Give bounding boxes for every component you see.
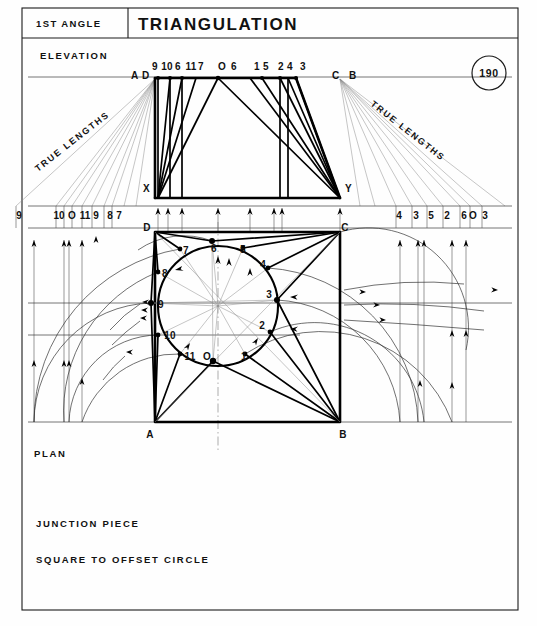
- plan-label-2: 2: [259, 320, 265, 331]
- plan-label-O: O: [203, 351, 211, 362]
- caption-line-1: JUNCTION PIECE: [36, 518, 140, 529]
- lscale-9: 9: [16, 210, 22, 221]
- elevation-section-label: ELEVATION: [40, 50, 108, 61]
- projection-angle-label: 1ST ANGLE: [36, 18, 102, 29]
- elev-label-10: 10: [161, 61, 173, 72]
- plan-label-1: 1: [241, 351, 247, 362]
- plan-label-7: 7: [183, 245, 189, 256]
- plan-label-8: 8: [162, 268, 168, 279]
- plan-label-A: A: [146, 429, 154, 440]
- rscale-3b: 3: [482, 210, 488, 221]
- elev-label-4: 4: [287, 61, 293, 72]
- elev-label-Y: Y: [345, 183, 352, 194]
- caption-line-2: SQUARE TO OFFSET CIRCLE: [36, 554, 210, 565]
- lscale-8: 8: [107, 210, 113, 221]
- lscale-7: 7: [116, 210, 122, 221]
- elev-label-A: A: [131, 70, 139, 81]
- left-projection-arcs: [32, 236, 212, 422]
- elev-label-2: 2: [278, 61, 284, 72]
- plan-label-5: 5: [240, 244, 246, 255]
- right-true-lengths-label: TRUE LENGTHS: [369, 99, 447, 163]
- elev-label-11: 11: [185, 61, 196, 72]
- left-scale-numbers: 9 10 O 11 9 8 7: [16, 210, 122, 221]
- plan-label-6: 6: [211, 243, 217, 254]
- elev-label-6: 6: [175, 61, 181, 72]
- elev-label-9: 9: [152, 61, 158, 72]
- plan-label-10: 10: [164, 330, 176, 341]
- lscale-9b: 9: [93, 210, 99, 221]
- technical-drawing-canvas: 1ST ANGLE TRIANGULATION 190 ELEVATION PL…: [0, 0, 537, 626]
- right-projection-arcs: [245, 228, 498, 422]
- plan-label-11: 11: [184, 351, 195, 362]
- elevation-top-point-labels: 9 10 6 11 7 O 6 1 5 2 4 3: [152, 61, 306, 72]
- lscale-11: 11: [80, 210, 91, 221]
- elev-label-X: X: [143, 183, 150, 194]
- elevation-triangulation-lines: [158, 78, 340, 198]
- plan-label-3: 3: [266, 289, 272, 300]
- drawing-sheet: 1ST ANGLE TRIANGULATION 190 ELEVATION PL…: [0, 0, 537, 626]
- elev-label-6b: 6: [231, 61, 237, 72]
- elev-label-5: 5: [263, 61, 269, 72]
- elev-label-3: 3: [300, 61, 306, 72]
- elev-label-o: O: [218, 61, 226, 72]
- left-true-length-fan: [16, 79, 155, 206]
- elev-label-C: C: [332, 70, 340, 81]
- elev-label-D: D: [142, 70, 150, 81]
- rscale-O: O: [469, 210, 477, 221]
- plan-label-B: B: [339, 429, 347, 440]
- elev-label-B: B: [349, 70, 357, 81]
- right-scale-numbers: 4 3 5 2 6 O 3: [396, 210, 488, 221]
- drawing-title: TRIANGULATION: [138, 15, 298, 34]
- plan-section-label: PLAN: [34, 448, 67, 459]
- rscale-6: 6: [461, 210, 467, 221]
- lscale-O: O: [68, 210, 76, 221]
- rscale-4: 4: [396, 210, 402, 221]
- projection-arrows-center: [155, 208, 342, 232]
- elev-label-1: 1: [254, 61, 260, 72]
- plan-datum-lines: [28, 303, 512, 422]
- rscale-5: 5: [428, 210, 434, 221]
- plan-label-C: C: [341, 222, 349, 233]
- rscale-3: 3: [413, 210, 419, 221]
- elev-label-7: 7: [198, 61, 204, 72]
- plan-label-9: 9: [158, 299, 164, 310]
- rscale-2: 2: [444, 210, 450, 221]
- plan-label-4: 4: [260, 259, 266, 270]
- plan-label-D: D: [143, 222, 151, 233]
- lscale-10: 10: [53, 210, 65, 221]
